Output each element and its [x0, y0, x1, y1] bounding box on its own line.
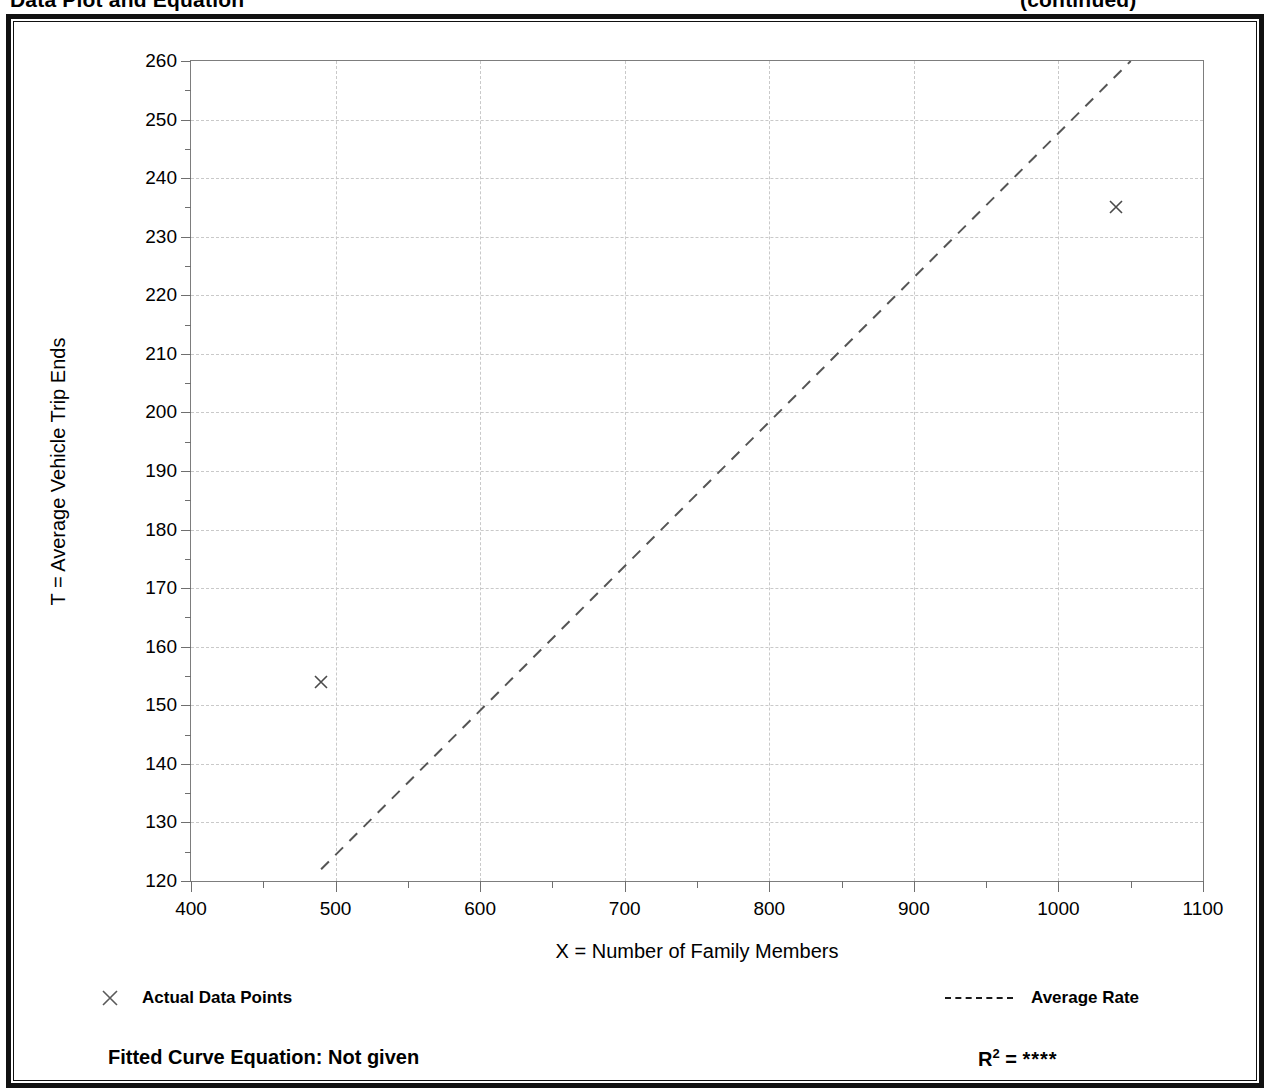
y-axis-tick-label: 260	[145, 50, 177, 72]
y-axis-tick	[181, 705, 191, 706]
y-axis-tick-label: 210	[145, 343, 177, 365]
data-point-marker	[1107, 198, 1125, 216]
y-axis-tick	[181, 647, 191, 648]
y-axis-tick	[181, 881, 191, 882]
legend-label-average-rate: Average Rate	[1031, 988, 1139, 1008]
y-axis-tick	[181, 764, 191, 765]
y-axis-tick	[181, 354, 191, 355]
x-axis-tick	[914, 881, 915, 892]
y-axis-tick	[181, 178, 191, 179]
x-axis-tick	[769, 881, 770, 892]
x-axis-title: X = Number of Family Members	[190, 940, 1204, 963]
y-axis-minor-tick	[185, 383, 191, 384]
dashed-line-icon	[945, 997, 1013, 999]
y-axis-tick	[181, 61, 191, 62]
y-axis-tick-label: 250	[145, 109, 177, 131]
y-axis-minor-tick	[185, 793, 191, 794]
x-axis-tick-label: 600	[464, 898, 496, 920]
y-axis-title: T = Average Vehicle Trip Ends	[44, 60, 74, 882]
y-axis-minor-tick	[185, 735, 191, 736]
x-marker-icon	[100, 988, 120, 1008]
y-axis-tick-label: 190	[145, 460, 177, 482]
y-axis-minor-tick	[185, 442, 191, 443]
x-axis-minor-tick	[986, 881, 987, 888]
y-axis-tick	[181, 237, 191, 238]
x-axis-tick	[336, 881, 337, 892]
r-squared-equals: =	[1000, 1048, 1023, 1070]
y-axis-tick	[181, 530, 191, 531]
page-title-right: (continued)	[1020, 0, 1137, 12]
y-axis-tick	[181, 295, 191, 296]
y-axis-tick	[181, 822, 191, 823]
data-point-marker	[312, 673, 330, 691]
y-axis-tick	[181, 471, 191, 472]
x-axis-tick-label: 900	[898, 898, 930, 920]
y-axis-tick-label: 130	[145, 811, 177, 833]
x-axis-tick	[191, 881, 192, 892]
r-squared-symbol: R	[978, 1048, 992, 1070]
x-axis-tick-label: 1000	[1037, 898, 1079, 920]
fitted-curve-equation: Fitted Curve Equation: Not given	[108, 1046, 419, 1069]
r-squared-exponent: 2	[992, 1046, 999, 1061]
x-axis-minor-tick	[1131, 881, 1132, 888]
y-axis-tick-label: 140	[145, 753, 177, 775]
data-markers	[191, 61, 1203, 881]
x-axis-tick-label: 1100	[1183, 898, 1224, 920]
x-axis-tick	[480, 881, 481, 892]
y-axis-tick-label: 160	[145, 636, 177, 658]
page-title-left: Data Plot and Equation	[10, 0, 244, 11]
x-axis-minor-tick	[408, 881, 409, 888]
r-squared-number: ****	[1022, 1048, 1057, 1070]
y-axis-minor-tick	[185, 90, 191, 91]
x-axis-minor-tick	[552, 881, 553, 888]
y-axis-tick-label: 170	[145, 577, 177, 599]
y-axis-tick-label: 150	[145, 694, 177, 716]
x-axis-tick-label: 700	[609, 898, 641, 920]
plot-area: 1201301401501601701801902002102202302402…	[190, 60, 1204, 882]
legend-item-actual-data-points: Actual Data Points	[100, 988, 292, 1008]
chart-footer: Fitted Curve Equation: Not given R2 = **…	[0, 1046, 1273, 1082]
y-axis-tick-label: 120	[145, 870, 177, 892]
x-axis-tick-label: 400	[175, 898, 207, 920]
x-axis-minor-tick	[263, 881, 264, 888]
y-axis-minor-tick	[185, 207, 191, 208]
y-axis-minor-tick	[185, 266, 191, 267]
x-axis-tick-label: 800	[753, 898, 785, 920]
chart-page: Data Plot and Equation (continued) T = A…	[0, 0, 1273, 1092]
x-axis-tick	[1058, 881, 1059, 892]
y-axis-minor-tick	[185, 617, 191, 618]
y-axis-minor-tick	[185, 559, 191, 560]
legend-item-average-rate: Average Rate	[945, 988, 1139, 1008]
r-squared-value: R2 = ****	[978, 1046, 1058, 1071]
y-axis-minor-tick	[185, 149, 191, 150]
page-title: Data Plot and Equation (continued)	[10, 0, 244, 12]
x-axis-minor-tick	[697, 881, 698, 888]
y-axis-tick-label: 220	[145, 284, 177, 306]
y-axis-tick-label: 200	[145, 401, 177, 423]
x-axis-tick	[625, 881, 626, 892]
y-axis-tick-label: 240	[145, 167, 177, 189]
chart-legend: Actual Data Points Average Rate	[0, 988, 1273, 1022]
y-axis-minor-tick	[185, 500, 191, 501]
y-axis-minor-tick	[185, 676, 191, 677]
y-axis-tick-label: 230	[145, 226, 177, 248]
x-axis-tick-label: 500	[320, 898, 352, 920]
y-axis-tick	[181, 412, 191, 413]
x-axis-minor-tick	[842, 881, 843, 888]
x-axis-tick	[1203, 881, 1204, 892]
y-axis-minor-tick	[185, 852, 191, 853]
y-axis-tick	[181, 120, 191, 121]
y-axis-minor-tick	[185, 325, 191, 326]
legend-label-actual-data-points: Actual Data Points	[142, 988, 292, 1008]
y-axis-tick	[181, 588, 191, 589]
y-axis-tick-label: 180	[145, 519, 177, 541]
